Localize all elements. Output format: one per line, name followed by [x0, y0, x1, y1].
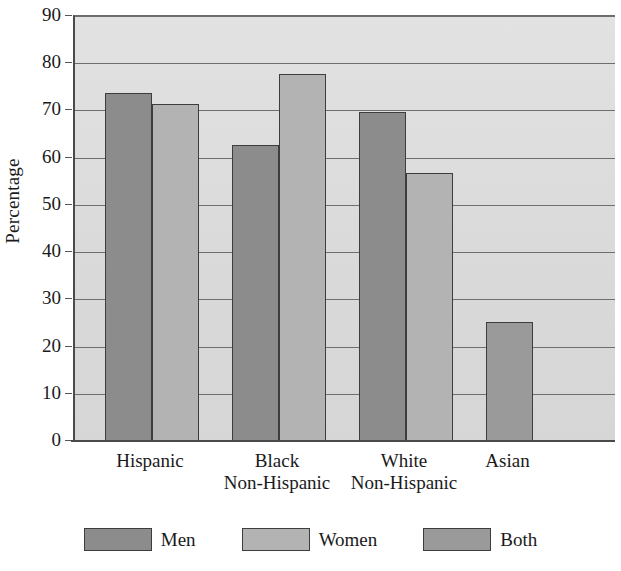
- y-tick-label: 20: [21, 336, 61, 355]
- bar-white-non-hispanic-women: [406, 173, 453, 441]
- y-tick-mark: [65, 298, 72, 299]
- bar-black-non-hispanic-women: [279, 74, 326, 441]
- gridline: [75, 63, 615, 64]
- y-tick-label: 80: [21, 52, 61, 71]
- bar-hispanic-men: [105, 93, 152, 441]
- y-tick-mark: [65, 346, 72, 347]
- chart-legend: MenWomenBoth: [0, 528, 621, 551]
- y-tick-label: 30: [21, 288, 61, 307]
- legend-swatch-women: [242, 528, 310, 551]
- bar-white-non-hispanic-men: [359, 112, 406, 441]
- plot-area: [73, 15, 615, 441]
- bar-black-non-hispanic-men: [232, 145, 279, 441]
- y-tick-label: 40: [21, 241, 61, 260]
- y-tick-label: 0: [21, 430, 61, 449]
- y-tick-label: 10: [21, 383, 61, 402]
- y-tick-mark: [65, 251, 72, 252]
- legend-item-women[interactable]: Women: [242, 528, 378, 551]
- legend-label-men: Men: [161, 529, 196, 551]
- bar-hispanic-women: [152, 104, 199, 441]
- y-tick-label: 90: [21, 5, 61, 24]
- y-tick-mark: [65, 109, 72, 110]
- y-tick-mark: [65, 393, 72, 394]
- x-axis-line: [71, 440, 615, 442]
- y-tick-mark: [65, 15, 72, 16]
- legend-label-both: Both: [500, 529, 537, 551]
- legend-label-women: Women: [319, 529, 378, 551]
- bar-chart: Percentage 9080706050403020100 HispanicB…: [0, 0, 621, 571]
- gridline: [75, 16, 615, 17]
- y-tick-mark: [65, 204, 72, 205]
- legend-item-men[interactable]: Men: [84, 528, 196, 551]
- y-tick-mark: [65, 62, 72, 63]
- y-tick-label: 50: [21, 194, 61, 213]
- legend-swatch-men: [84, 528, 152, 551]
- x-category-label: Asian: [418, 450, 598, 472]
- y-tick-label: 60: [21, 147, 61, 166]
- y-tick-mark: [65, 157, 72, 158]
- legend-swatch-both: [423, 528, 491, 551]
- legend-item-both[interactable]: Both: [423, 528, 537, 551]
- bar-asian-both: [486, 322, 533, 441]
- y-tick-label: 70: [21, 99, 61, 118]
